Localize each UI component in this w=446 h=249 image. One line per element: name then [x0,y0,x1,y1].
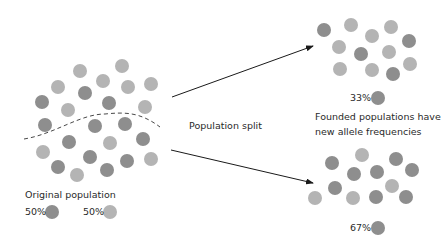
top-dark-allele-dot [317,23,331,37]
bottom-founded-population-dots [308,148,419,205]
original-dark-allele-dot [118,117,132,131]
original-dark-allele-dot [78,86,92,100]
original-dark-allele-dot [88,119,102,133]
original-light-allele-dot [144,152,158,166]
original-dark-allele-dot [38,118,52,132]
original-light-allele-dot [73,64,87,78]
original-dark-allele-dot [51,160,65,174]
bottom-light-allele-dot [355,148,369,162]
legend-dark-allele-dot [371,221,385,235]
original-light-allele-dot [144,77,158,91]
bottom-dark-allele-dot [325,156,339,170]
top-founded-population-dots [317,18,417,81]
bottom-dark-allele-dot [399,190,413,204]
bottom-dark-allele-dot [370,165,384,179]
original-dark-allele-dot [83,150,97,164]
original-dark-allele-dot [120,154,134,168]
arrow-to-bottom-population [171,150,313,183]
bottom-light-allele-dot [346,191,360,205]
bottom-dark-allele-dot [389,152,403,166]
original-light-allele-dot [96,74,110,88]
original-light-allele-dot [51,80,65,94]
top-light-allele-dot [403,57,417,71]
legend-light-allele-dot [103,205,117,219]
bottom-population-percent: 67% [350,223,371,233]
top-dark-allele-dot [402,34,416,48]
population-split-label: Population split [189,121,262,131]
original-dark-allele-dot [62,135,76,149]
founded-populations-label-line2: new allele frequencies [315,127,422,137]
arrow-to-top-population [172,46,313,97]
original-dark-allele-dot [102,96,116,110]
original-light-allele-dot [70,168,84,182]
original-light-allele-percent: 50% [83,207,104,217]
top-dark-allele-dot [386,67,400,81]
original-light-allele-dot [36,145,50,159]
original-light-allele-dot [138,100,152,114]
top-light-allele-dot [365,63,379,77]
split-arrows [171,46,313,183]
original-dark-allele-dot [100,163,114,177]
top-light-allele-dot [333,62,347,76]
original-population-dots [35,59,158,182]
top-light-allele-dot [344,18,358,32]
top-light-allele-dot [332,40,346,54]
bottom-dark-allele-dot [405,163,419,177]
original-light-allele-dot [121,80,135,94]
bottom-dark-allele-dot [347,167,361,181]
top-light-allele-dot [382,45,396,59]
original-dark-allele-dot [35,95,49,109]
original-light-allele-dot [103,136,117,150]
legend-dark-allele-dot [45,205,59,219]
bottom-light-allele-dot [308,191,322,205]
top-dark-allele-dot [354,47,368,61]
top-light-allele-dot [365,29,379,43]
founded-populations-label-line1: Founded populations have [315,112,441,122]
top-light-allele-dot [384,20,398,34]
original-light-allele-dot [115,59,129,73]
bottom-dark-allele-dot [369,190,383,204]
original-dark-allele-percent: 50% [25,207,46,217]
legend-dark-allele-dot [371,91,385,105]
bottom-light-allele-dot [385,179,399,193]
original-dark-allele-dot [136,132,150,146]
original-population-label: Original population [25,190,116,200]
original-light-allele-dot [61,103,75,117]
top-population-percent: 33% [350,93,371,103]
bottom-dark-allele-dot [328,181,342,195]
